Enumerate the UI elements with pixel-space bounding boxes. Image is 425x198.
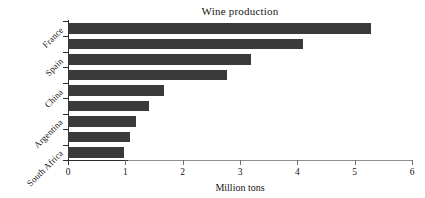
y-axis-tick [63, 114, 68, 115]
bars-layer [68, 21, 412, 160]
bar-row [68, 36, 412, 51]
y-axis-tick [63, 98, 68, 99]
x-axis-spine-origin-segment [68, 160, 128, 161]
y-axis-tick [63, 145, 68, 146]
y-axis-tick [63, 52, 68, 53]
bar [68, 54, 251, 65]
wine-production-chart: Wine production FranceSpainChinaArgentin… [0, 0, 425, 198]
x-axis-tick-label: 0 [66, 167, 71, 177]
y-axis-tick-label: France [41, 26, 65, 50]
x-axis-tick-label: 4 [295, 167, 300, 177]
bar-row [68, 83, 412, 98]
x-axis-tick-label: 5 [352, 167, 357, 177]
x-axis-title: Million tons [68, 182, 412, 193]
y-axis-tick-label: China [43, 87, 65, 109]
bar [68, 101, 149, 112]
plot-area [68, 21, 412, 160]
y-axis-tick-label: Spain [44, 56, 65, 77]
y-axis-tick [63, 129, 68, 130]
bar [68, 85, 164, 96]
bar-row [68, 114, 412, 129]
bar-row [68, 21, 412, 36]
x-axis-tick [297, 160, 298, 165]
y-axis-tick-label: Argentina [33, 118, 65, 150]
y-axis-tick-label: South Africa [26, 149, 66, 189]
x-axis-tick [240, 160, 241, 165]
bar-row [68, 145, 412, 160]
y-axis-tick [63, 36, 68, 37]
x-axis-tick [412, 160, 413, 165]
bar-row [68, 129, 412, 144]
x-axis-tick [355, 160, 356, 165]
x-axis-tick-label: 2 [180, 167, 185, 177]
y-axis-tick [63, 67, 68, 68]
bar-row [68, 67, 412, 82]
bar-row [68, 98, 412, 113]
x-axis-tick-label: 6 [410, 167, 415, 177]
x-axis-tick-label: 1 [123, 167, 128, 177]
bar [68, 132, 130, 143]
y-axis-tick [63, 83, 68, 84]
y-axis-tick [63, 21, 68, 22]
bar [68, 23, 371, 34]
x-axis-tick [183, 160, 184, 165]
bar-row [68, 52, 412, 67]
chart-title: Wine production [68, 5, 412, 17]
x-axis-tick-label: 3 [238, 167, 243, 177]
x-axis-tick [125, 160, 126, 165]
x-axis-tick [68, 160, 69, 165]
bar [68, 147, 124, 158]
bar [68, 70, 227, 81]
bar [68, 39, 303, 50]
bar [68, 116, 136, 127]
